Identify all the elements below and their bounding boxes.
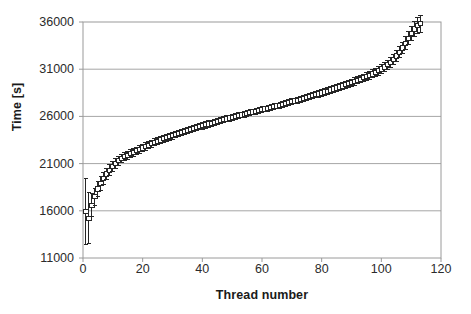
chart-container: 36000 31000 26000 21000 16000 11000 0 20… xyxy=(0,0,471,314)
gridlines xyxy=(83,69,441,211)
y-tick-label: 16000 xyxy=(14,204,74,218)
y-tick-label: 21000 xyxy=(14,157,74,171)
plot-frame xyxy=(83,22,441,258)
x-axis-title: Thread number xyxy=(83,288,441,302)
x-tick-label: 0 xyxy=(53,262,113,276)
x-tick-label: 120 xyxy=(411,262,471,276)
x-tick-label: 60 xyxy=(232,262,292,276)
x-tick-label: 80 xyxy=(292,262,352,276)
y-tick-label: 36000 xyxy=(14,15,74,29)
x-tick-label: 100 xyxy=(351,262,411,276)
axis-ticks xyxy=(79,22,441,262)
x-tick-label: 40 xyxy=(172,262,232,276)
x-tick-label: 20 xyxy=(113,262,173,276)
y-axis-title: Time [s] xyxy=(10,62,24,152)
